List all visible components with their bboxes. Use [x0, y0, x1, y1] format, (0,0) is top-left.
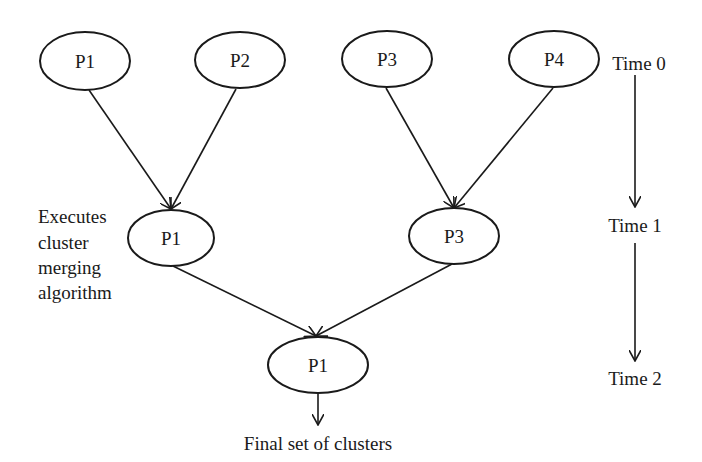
- timeline: Time 0 Time 1 Time 2: [608, 53, 666, 389]
- node-p2-time0: P2: [195, 32, 285, 88]
- node-label: P3: [377, 49, 397, 70]
- node-label: P1: [161, 228, 181, 249]
- final-output-label: Final set of clusters: [244, 433, 392, 454]
- node-p1-time0: P1: [40, 32, 130, 90]
- annotation-line: algorithm: [38, 282, 112, 303]
- node-p3-time0: P3: [342, 31, 432, 87]
- node-label: P2: [230, 50, 250, 71]
- edge-p1-to-p1-time1: [89, 90, 171, 209]
- node-label: P1: [75, 51, 95, 72]
- node-label: P4: [544, 49, 565, 70]
- node-p1-time2: P1: [268, 337, 368, 393]
- time-label-2: Time 2: [608, 368, 662, 389]
- diagram-canvas: P1 P2 P3 P4 P1 P3 P1 Executes cluster me…: [0, 0, 702, 462]
- annotation-line: merging: [38, 257, 101, 278]
- node-p3-time1: P3: [409, 208, 499, 264]
- time-label-1: Time 1: [608, 215, 662, 236]
- node-label: P3: [444, 226, 464, 247]
- time-label-0: Time 0: [612, 53, 666, 74]
- annotation-line: Executes: [38, 206, 107, 227]
- edge-p1-time1-to-p1-time2: [173, 266, 316, 336]
- edge-p3-to-p3-time1: [386, 88, 454, 208]
- node-label: P1: [308, 355, 328, 376]
- node-p4-time0: P4: [509, 31, 599, 87]
- cluster-merging-diagram: P1 P2 P3 P4 P1 P3 P1 Executes cluster me…: [0, 0, 702, 462]
- edge-p3-time1-to-p1-time2: [316, 264, 452, 336]
- edge-p4-to-p3-time1: [454, 88, 553, 208]
- merge-annotation: Executes cluster merging algorithm: [38, 206, 112, 303]
- edge-p2-to-p1-time1: [171, 89, 236, 209]
- annotation-line: cluster: [38, 232, 89, 253]
- node-p1-time1: P1: [128, 210, 214, 266]
